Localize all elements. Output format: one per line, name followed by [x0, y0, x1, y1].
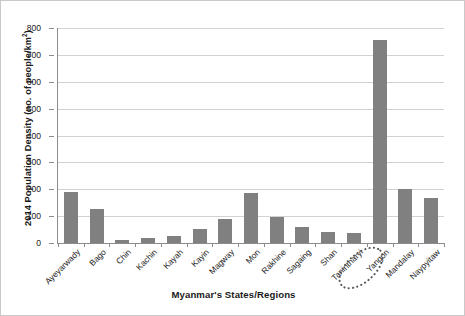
x-tick-label-text: Shan	[318, 247, 339, 268]
y-tick-mark-100	[49, 216, 54, 217]
bar-slot-kachin	[135, 28, 161, 243]
bar-slot-naypyitaw	[418, 28, 444, 243]
y-tick-mark-500	[49, 109, 54, 110]
y-tick-label-600: 600	[1, 77, 41, 87]
bar-slot-mon	[238, 28, 264, 243]
y-tick-label-700: 700	[1, 50, 41, 60]
bar-series	[58, 28, 444, 243]
y-tick-mark-800	[49, 28, 54, 29]
x-tick-label-text: Kachin	[134, 247, 159, 272]
bar-slot-shan	[315, 28, 341, 243]
bar-slot-ayeyarwady	[58, 28, 84, 243]
x-axis-title: Myanmar's States/Regions	[1, 289, 465, 300]
y-axis-ticks: 0100200300400500600700800	[1, 28, 58, 243]
bar-slot-kayah	[161, 28, 187, 243]
bar-slot-kayin	[187, 28, 213, 243]
bar-slot-chin	[109, 28, 135, 243]
y-tick-mark-400	[49, 136, 54, 137]
bar-chart-figure: 2014 Population Density (no. of people/k…	[0, 0, 465, 316]
y-tick-mark-200	[49, 189, 54, 190]
y-tick-label-300: 300	[1, 157, 41, 167]
x-tick-label-text: Kayah	[161, 247, 185, 271]
bar-rakhine[interactable]	[270, 217, 284, 243]
bar-slot-sagaing	[290, 28, 316, 243]
bar-slot-yangon	[367, 28, 393, 243]
y-tick-label-500: 500	[1, 104, 41, 114]
y-tick-mark-300	[49, 162, 54, 163]
y-tick-mark-0	[49, 243, 54, 244]
bar-ayeyarwady[interactable]	[64, 192, 78, 243]
bar-yangon[interactable]	[373, 40, 387, 243]
y-tick-label-400: 400	[1, 131, 41, 141]
bar-slot-magway	[212, 28, 238, 243]
x-tick-label-text: Ayeyarwady	[43, 247, 82, 286]
y-tick-mark-700	[49, 55, 54, 56]
x-axis-labels: AyeyarwadyBagoChinKachinKayahKayinMagway…	[1, 247, 465, 293]
bar-slot-tanintharyi	[341, 28, 367, 243]
bar-slot-mandalay	[393, 28, 419, 243]
y-tick-label-100: 100	[1, 211, 41, 221]
x-tick-label-text: Mon	[243, 247, 262, 266]
plot-area	[58, 28, 444, 243]
bar-slot-rakhine	[264, 28, 290, 243]
x-tick-label-text: Bago	[87, 247, 108, 268]
y-tick-label-800: 800	[1, 23, 41, 33]
x-tick-label-text: Kayin	[189, 247, 211, 269]
y-tick-mark-600	[49, 82, 54, 83]
bar-slot-bago	[84, 28, 110, 243]
x-tick-label-text: Chin	[114, 247, 133, 266]
y-tick-label-200: 200	[1, 184, 41, 194]
